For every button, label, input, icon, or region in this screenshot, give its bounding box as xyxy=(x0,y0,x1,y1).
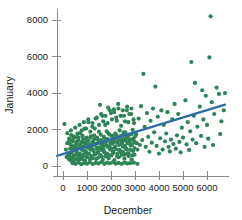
data-point xyxy=(97,123,101,127)
data-point xyxy=(106,121,110,125)
data-point xyxy=(86,117,90,121)
data-point xyxy=(102,148,106,152)
data-point xyxy=(103,114,107,118)
data-point xyxy=(80,134,84,138)
data-point xyxy=(223,91,227,95)
data-point xyxy=(175,133,179,137)
y-axis-title: January xyxy=(3,76,15,114)
data-point xyxy=(155,144,159,148)
data-point xyxy=(110,117,114,121)
data-point xyxy=(122,157,126,161)
data-point xyxy=(121,108,125,112)
data-point xyxy=(91,148,95,152)
data-point xyxy=(147,150,151,154)
data-point xyxy=(149,119,153,123)
data-point xyxy=(139,104,143,108)
data-point xyxy=(193,81,197,85)
data-point xyxy=(67,155,71,159)
scatter-chart: 02000400060008000 0100020003000400050006… xyxy=(0,0,242,220)
data-point xyxy=(76,153,80,157)
data-point xyxy=(130,153,134,157)
data-point xyxy=(173,102,177,106)
data-point xyxy=(75,140,79,144)
data-point xyxy=(128,143,132,147)
data-point xyxy=(129,106,133,110)
data-point xyxy=(100,154,104,158)
data-point xyxy=(81,154,85,158)
x-tick-label: 3000 xyxy=(124,182,145,193)
data-point xyxy=(200,88,204,92)
data-point xyxy=(141,72,145,76)
data-point xyxy=(132,161,136,165)
data-point xyxy=(80,128,84,132)
data-point xyxy=(123,153,127,157)
data-point xyxy=(95,116,99,120)
data-point xyxy=(113,144,117,148)
data-point xyxy=(203,145,207,149)
data-point xyxy=(77,123,81,127)
data-point xyxy=(116,102,120,106)
data-point xyxy=(135,162,139,166)
data-point xyxy=(144,145,148,149)
data-point xyxy=(204,94,208,98)
data-point xyxy=(108,141,112,145)
data-point xyxy=(132,146,136,150)
data-point xyxy=(79,142,83,146)
data-point xyxy=(125,108,129,112)
data-point xyxy=(82,120,86,124)
data-point xyxy=(174,147,178,151)
data-point xyxy=(84,126,88,130)
data-point xyxy=(127,112,131,116)
data-point xyxy=(119,114,123,118)
data-point xyxy=(210,100,214,104)
data-point xyxy=(105,145,109,149)
data-point xyxy=(108,108,112,112)
data-point xyxy=(171,142,175,146)
data-point xyxy=(107,153,111,157)
data-point xyxy=(133,134,137,138)
data-point xyxy=(128,161,132,165)
data-point xyxy=(217,92,221,96)
data-point xyxy=(177,140,181,144)
data-point xyxy=(88,136,92,140)
y-tick-label: 2000 xyxy=(27,124,48,135)
data-point xyxy=(179,150,183,154)
data-point xyxy=(77,136,81,140)
data-point xyxy=(120,141,124,145)
data-point xyxy=(98,103,102,107)
data-point xyxy=(125,105,129,109)
data-point xyxy=(191,137,195,141)
data-point xyxy=(114,116,118,120)
data-point xyxy=(93,126,97,130)
data-point xyxy=(218,132,222,136)
data-point xyxy=(127,151,131,155)
x-axis-title: December xyxy=(104,204,153,216)
data-point xyxy=(71,154,75,158)
data-point xyxy=(99,112,103,116)
x-tick-label: 6000 xyxy=(196,182,217,193)
data-point xyxy=(198,105,202,109)
data-point xyxy=(62,122,66,126)
data-point xyxy=(71,134,75,138)
data-point xyxy=(84,137,88,141)
data-point xyxy=(112,140,116,144)
data-point xyxy=(112,110,116,114)
data-point xyxy=(157,151,161,155)
x-tick-label: 4000 xyxy=(148,182,169,193)
data-point xyxy=(90,121,94,125)
data-point xyxy=(188,129,192,133)
data-point xyxy=(92,133,96,137)
data-point xyxy=(199,134,203,138)
x-tick-label: 0 xyxy=(60,182,65,193)
data-point xyxy=(146,135,150,139)
data-point xyxy=(89,156,93,160)
data-point xyxy=(176,112,180,116)
data-point xyxy=(156,115,160,119)
data-point xyxy=(99,133,103,137)
x-tick-label: 1000 xyxy=(76,182,97,193)
y-tick-label: 8000 xyxy=(27,14,48,25)
data-point xyxy=(122,130,126,134)
data-point xyxy=(73,126,77,130)
data-point xyxy=(168,149,172,153)
data-point xyxy=(150,141,154,145)
